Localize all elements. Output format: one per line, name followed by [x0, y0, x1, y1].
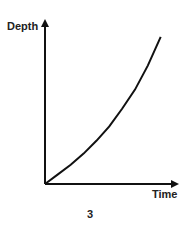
y-axis-label: Depth: [7, 20, 38, 32]
figure-caption: 3: [87, 208, 93, 220]
depth-time-curve: [45, 37, 161, 184]
x-axis-label: Time: [152, 188, 177, 200]
